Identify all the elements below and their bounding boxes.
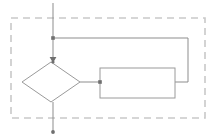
diagram-canvas xyxy=(0,0,217,140)
decision-diamond-node[interactable] xyxy=(22,62,80,102)
branch-junction-process-input-icon xyxy=(98,80,102,84)
process-rectangle-node[interactable] xyxy=(100,68,175,98)
branch-junction-top-icon xyxy=(51,36,55,40)
branch-junction-decision-top-icon xyxy=(51,60,54,63)
exit-terminator-dot-icon xyxy=(51,130,55,134)
flowchart-svg xyxy=(0,0,217,140)
connector-entry-flow xyxy=(50,3,57,63)
